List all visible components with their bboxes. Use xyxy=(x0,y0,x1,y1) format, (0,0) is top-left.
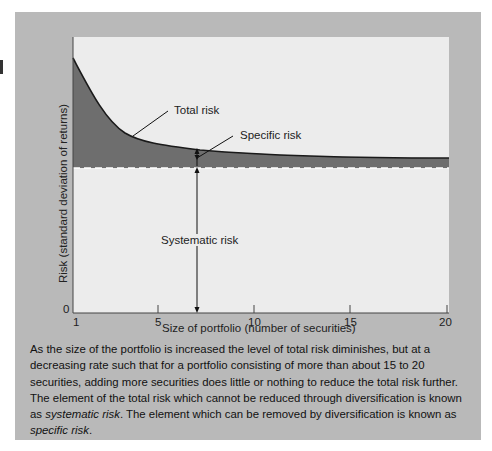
x-axis-label: Size of portfolio (number of securities) xyxy=(162,322,356,334)
figure-caption: As the size of the portfolio is increase… xyxy=(30,341,475,439)
y-axis-label: Risk (standard deviation of returns) xyxy=(57,104,69,283)
specific-risk-label: Specific risk xyxy=(240,129,301,141)
systematic-risk-label: Systematic risk xyxy=(160,234,239,246)
x-tick-1: 1 xyxy=(73,316,79,328)
y-tick-0: 0 xyxy=(63,303,69,315)
specific-risk-area xyxy=(73,58,449,168)
total-risk-leader xyxy=(133,111,168,136)
x-tick-20: 20 xyxy=(439,316,452,328)
total-risk-label: Total risk xyxy=(174,104,219,116)
x-tick-5: 5 xyxy=(155,316,161,328)
